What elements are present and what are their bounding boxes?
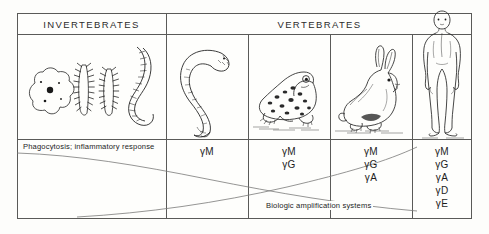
header-band: INVERTEBRATES VERTEBRATES [17,13,472,35]
ig-rabbit-2: γG [330,158,412,172]
rabbit-icon [335,46,403,133]
ig-frog-1: γM [248,145,330,159]
frog-icon [253,72,319,130]
lamprey-icon [181,50,229,137]
ig-lamprey-1: γM [166,145,248,159]
ig-rabbit-1: γM [330,145,412,159]
cell-lamprey-art [166,35,248,139]
ig-human-5: γE [412,197,472,211]
illustration-row [17,35,472,139]
label-row: Phagocytosis; inflammatory response γM γ… [17,139,472,219]
ig-human-3: γA [412,171,472,185]
human-icon [422,11,464,138]
ig-rabbit-3: γA [330,171,412,185]
ig-human-2: γG [412,158,472,172]
human-figure-wrapper [412,7,472,139]
cell-invertebrates-art [17,35,166,139]
ig-human-4: γD [412,184,472,198]
header-invertebrates: INVERTEBRATES [17,13,166,35]
arthropod-icon-2 [99,67,120,115]
ig-human-1: γM [412,145,472,159]
arthropod-icon-1 [73,63,94,115]
earthworm-icon [129,47,154,125]
cell-rabbit-art [330,35,412,139]
phagocytosis-label: Phagocytosis; inflammatory response [23,142,154,151]
amoeba-icon [29,68,74,114]
immune-evolution-diagram: INVERTEBRATES VERTEBRATES [17,13,472,219]
amplification-label: Biologic amplification systems [264,201,373,210]
ig-frog-2: γG [248,158,330,172]
cell-frog-art [248,35,330,139]
